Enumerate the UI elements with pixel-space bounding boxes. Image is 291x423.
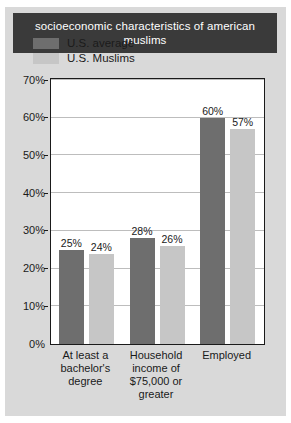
bar-value-label: 57%	[225, 116, 260, 128]
y-tick-label: 60%	[23, 111, 45, 123]
chart-legend: U.S. average U.S. Muslims	[33, 37, 135, 67]
gridline	[51, 79, 264, 80]
y-tick-mark	[44, 80, 48, 81]
y-tick-label: 50%	[23, 149, 45, 161]
x-axis-labels: At least a bachelor's degreeHousehold in…	[50, 349, 265, 413]
y-tick-mark	[44, 117, 48, 118]
bar-value-label: 26%	[155, 233, 190, 245]
bar	[160, 246, 185, 344]
bar	[130, 238, 155, 344]
y-tick-mark	[44, 306, 48, 307]
legend-label-us-average: U.S. average	[67, 37, 134, 49]
legend-item-us-muslims: U.S. Muslims	[33, 52, 135, 64]
x-axis-category-label: Employed	[191, 349, 262, 362]
y-tick-label: 10%	[23, 300, 45, 312]
y-axis: 0%10%20%30%40%50%60%70%	[5, 78, 48, 345]
y-tick-mark	[44, 230, 48, 231]
legend-item-us-average: U.S. average	[33, 37, 135, 49]
legend-label-us-muslims: U.S. Muslims	[67, 52, 135, 64]
bar	[89, 254, 114, 345]
y-tick-label: 70%	[23, 74, 45, 86]
y-tick-mark	[44, 155, 48, 156]
bar-value-label: 60%	[195, 105, 230, 117]
plot-area: 25%24%28%26%60%57%	[50, 78, 265, 345]
y-tick-label: 40%	[23, 187, 45, 199]
legend-swatch-us-average	[33, 38, 59, 49]
y-tick-mark	[44, 193, 48, 194]
x-axis-category-label: Household income of $75,000 or greater	[121, 349, 192, 401]
x-axis-category-label: At least a bachelor's degree	[50, 349, 121, 388]
bar-value-label: 24%	[84, 241, 119, 253]
y-tick-label: 0%	[29, 338, 45, 350]
y-tick-label: 30%	[23, 224, 45, 236]
y-tick-mark	[44, 268, 48, 269]
y-tick-label: 20%	[23, 262, 45, 274]
chart-figure: socioeconomic characteristics of america…	[5, 7, 286, 416]
bar	[59, 250, 84, 344]
legend-swatch-us-muslims	[33, 53, 59, 64]
bar	[200, 118, 225, 344]
bar	[230, 129, 255, 344]
